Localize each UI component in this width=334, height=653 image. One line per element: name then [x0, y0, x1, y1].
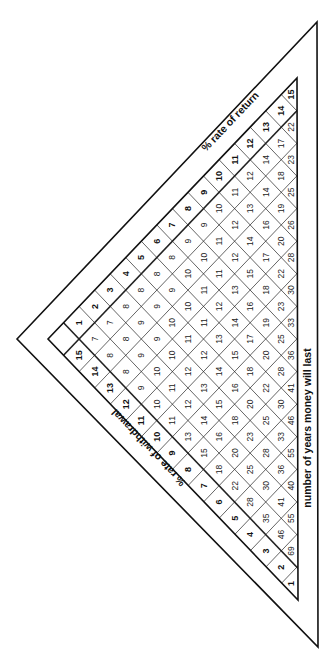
withdrawal-rate-header: 4 [245, 532, 255, 537]
grid-line [250, 127, 300, 179]
years-cell: 12 [214, 301, 224, 311]
withdrawal-rate-header: 15 [74, 350, 84, 360]
years-cell: 17 [261, 253, 271, 263]
withdrawal-rate-header: 14 [90, 367, 100, 377]
return-rate-header: 10 [214, 171, 224, 181]
years-cell: 41 [276, 497, 286, 507]
years-cell: 11 [167, 416, 177, 425]
years-cell: 18 [276, 171, 286, 181]
years-cell: 9 [152, 304, 162, 309]
years-cell: 20 [276, 236, 286, 246]
return-rate-header: 4 [121, 271, 131, 276]
diamond-grid: 1234567891011121314151514131211109876543… [48, 75, 300, 603]
withdrawal-rate-header: 13 [105, 383, 115, 393]
withdrawal-rate-header: 11 [136, 416, 146, 426]
years-cell: 8 [105, 353, 115, 358]
years-cell: 7 [105, 320, 115, 325]
withdrawal-rate-header: 7 [199, 483, 209, 488]
withdrawal-rate-header: 12 [121, 399, 131, 409]
years-cell: 17 [245, 334, 255, 344]
years-cell: 7 [90, 336, 100, 341]
years-cell: 16 [214, 432, 224, 442]
years-cell: 13 [230, 285, 240, 295]
years-cell: 10 [152, 367, 162, 377]
years-cell: 13 [183, 432, 193, 442]
years-cell: 25 [245, 464, 255, 474]
withdrawal-rate-header: 8 [183, 467, 193, 472]
years-cell: 69 [286, 546, 296, 556]
withdrawal-triangle-table: 1234567891011121314151514131211109876543… [0, 0, 334, 653]
years-cell: 14 [261, 187, 271, 197]
years-cell: 40 [286, 481, 296, 491]
grid-line [110, 205, 300, 404]
years-cell: 46 [286, 416, 296, 426]
return-rate-header: 7 [167, 222, 177, 227]
years-cell: 20 [261, 350, 271, 360]
return-rate-header: 6 [152, 239, 162, 244]
years-cell: 14 [199, 416, 209, 426]
grid-line [126, 238, 300, 421]
years-cell: 41 [286, 383, 296, 393]
years-cell: 28 [261, 448, 271, 458]
years-cell: 10 [214, 204, 224, 214]
years-cell: 9 [136, 353, 146, 358]
years-cell: 13 [245, 204, 255, 214]
years-cell: 11 [183, 334, 193, 343]
return-rate-header: 2 [90, 304, 100, 309]
withdrawal-rate-header: 6 [214, 499, 224, 504]
withdrawal-rate-header: 3 [261, 548, 271, 553]
years-cell: 28 [276, 367, 286, 377]
grid-line [250, 499, 300, 551]
return-rate-header: 12 [245, 138, 255, 148]
return-rate-header: 11 [230, 155, 240, 165]
years-cell: 9 [183, 239, 193, 244]
years-cell: 13 [199, 383, 209, 393]
grid-line [219, 160, 300, 245]
years-cell: 30 [276, 399, 286, 409]
return-rate-header: 5 [136, 255, 146, 260]
years-cell: 30 [286, 285, 296, 295]
years-cell: 22 [261, 383, 271, 393]
years-cell: 18 [261, 285, 271, 295]
years-cell: 25 [276, 334, 286, 344]
years-cell: 23 [245, 432, 255, 442]
years-cell: 13 [214, 334, 224, 344]
years-cell: 8 [167, 255, 177, 260]
years-cell: 26 [286, 220, 296, 230]
years-cell: 12 [230, 253, 240, 263]
years-cell: 18 [214, 464, 224, 474]
years-cell: 9 [152, 336, 162, 341]
outer-triangle-border [17, 22, 318, 647]
years-cell: 35 [261, 513, 271, 523]
years-cell: 18 [230, 416, 240, 426]
years-cell: 8 [121, 369, 131, 374]
years-cell: 8 [121, 304, 131, 309]
years-cell: 15 [245, 269, 255, 279]
years-cell: 10 [183, 301, 193, 311]
years-cell: 36 [276, 464, 286, 474]
years-cell: 16 [245, 301, 255, 311]
years-cell: 9 [136, 385, 146, 390]
years-cell: 11 [167, 383, 177, 392]
years-cell: 33 [276, 432, 286, 442]
years-cell: 25 [261, 416, 271, 426]
years-cell: 14 [245, 236, 255, 246]
years-cell: 15 [230, 350, 240, 360]
years-label: number of years money will last [301, 348, 313, 508]
years-cell: 10 [199, 253, 209, 263]
years-cell: 12 [199, 350, 209, 360]
years-cell: 28 [245, 497, 255, 507]
grid-line [141, 241, 300, 407]
years-cell: 14 [261, 155, 271, 165]
years-cell: 8 [136, 287, 146, 292]
years-cell: 33 [286, 318, 296, 328]
withdrawal-rate-header: 2 [276, 565, 286, 570]
years-cell: 46 [276, 530, 286, 540]
grid-line [141, 271, 300, 437]
years-cell: 12 [230, 220, 240, 230]
years-cell: 8 [152, 271, 162, 276]
years-cell: 14 [230, 318, 240, 328]
years-cell: 14 [214, 367, 224, 377]
years-cell: 28 [286, 253, 296, 263]
grid-line [126, 258, 300, 441]
